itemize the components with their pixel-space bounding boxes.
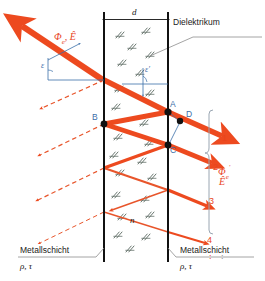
transmitted-beam-4	[168, 232, 205, 243]
point-d-label: D	[186, 110, 192, 119]
exit-flux-prime: ′	[229, 163, 231, 171]
metal-layer-left-props: ρ, τ	[20, 262, 32, 271]
point-b-label: B	[92, 113, 98, 122]
angle-epsilon-prime-label: ε′	[145, 66, 150, 74]
point-a-label: A	[170, 100, 176, 109]
metal-layer-left-label: Metallschicht	[20, 246, 69, 255]
dielektrikum-leader	[150, 37, 262, 56]
metal-layer-right-label: Metallschicht	[180, 246, 229, 255]
dot-a	[164, 108, 171, 115]
transmitted-beam-3	[168, 190, 207, 206]
internal-reflection-left-right-3	[104, 168, 168, 190]
incident-flux-symbol: Φ	[54, 31, 62, 42]
refractive-index-label: n	[130, 216, 135, 225]
transmitted-beam-1	[168, 112, 222, 136]
ray-number-1: 1	[222, 134, 227, 143]
incident-flux-label: Φe, Ê	[54, 27, 76, 46]
incident-field-symbol: Ê	[70, 31, 76, 42]
exit-flux-subscript: e	[226, 173, 229, 181]
angle-epsilon-label: ε	[41, 62, 44, 70]
dot-d	[177, 118, 183, 124]
internal-reflection-a-b	[104, 112, 168, 124]
exit-field-label: Ê	[219, 177, 225, 187]
reflected-rays-left	[38, 80, 104, 243]
point-c-label: C	[170, 146, 176, 155]
internal-reflection-b-c	[104, 124, 168, 145]
dot-b	[101, 121, 108, 128]
refracted-beam-segment-1	[104, 80, 168, 112]
dielectric-label: Dielektrikum	[173, 18, 220, 27]
optics-diagram-dielectric-slab: d Dielektrikum Φe, Ê ε ε′ A D B C n 1 2 …	[0, 0, 265, 281]
metal-layer-right-props: ρ, τ	[180, 262, 192, 271]
thickness-label: d	[132, 8, 137, 17]
ray-number-3: 3	[209, 197, 214, 206]
